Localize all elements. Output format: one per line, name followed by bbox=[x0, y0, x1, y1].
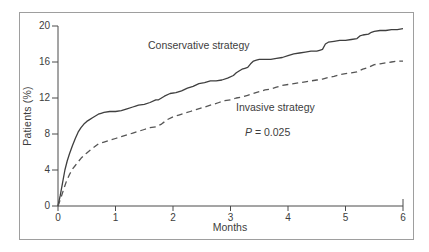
kaplan-meier-figure: Patients (%) Months Conservative strateg… bbox=[0, 0, 429, 252]
x-tick-label: 0 bbox=[49, 212, 67, 223]
curve-invasive-strategy bbox=[58, 61, 403, 206]
y-tick-label: 8 bbox=[24, 128, 50, 139]
x-tick-label: 3 bbox=[222, 212, 240, 223]
p-value-text: = 0.025 bbox=[252, 126, 290, 138]
y-tick-label: 16 bbox=[24, 56, 50, 67]
invasive-strategy-label: Invasive strategy bbox=[236, 101, 315, 113]
p-symbol: P bbox=[245, 126, 252, 138]
y-tick-label: 4 bbox=[24, 164, 50, 175]
y-tick-label: 0 bbox=[24, 200, 50, 211]
x-tick-label: 6 bbox=[394, 212, 412, 223]
x-tick-label: 1 bbox=[107, 212, 125, 223]
conservative-strategy-label: Conservative strategy bbox=[148, 39, 250, 51]
x-tick-label: 4 bbox=[279, 212, 297, 223]
x-tick-label: 5 bbox=[337, 212, 355, 223]
y-tick-label: 20 bbox=[24, 20, 50, 31]
y-tick-label: 12 bbox=[24, 92, 50, 103]
p-value-annotation: P = 0.025 bbox=[245, 126, 290, 138]
curve-conservative-strategy bbox=[58, 29, 403, 206]
x-tick-label: 2 bbox=[164, 212, 182, 223]
